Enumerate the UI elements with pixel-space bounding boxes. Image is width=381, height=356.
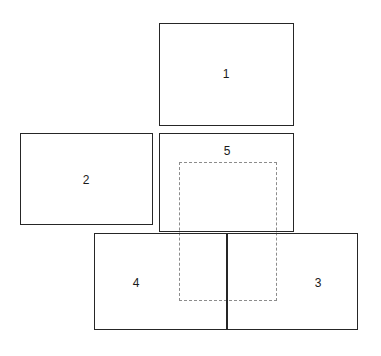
panel-label-2: 2 [76,174,96,186]
panel-label-1: 1 [216,68,236,80]
panel-label-3: 3 [308,277,328,289]
panel-rectangle-4[interactable] [94,233,227,330]
panel-rectangle-3[interactable] [227,233,358,330]
diagram-canvas: 1 2 5 4 3 [0,0,381,356]
panel-label-4: 4 [126,277,146,289]
panel-label-5: 5 [217,145,237,157]
